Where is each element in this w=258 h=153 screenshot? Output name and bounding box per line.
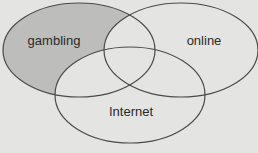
online-label: online (187, 33, 222, 48)
internet-label: Internet (109, 104, 153, 119)
gambling-label: gambling (28, 33, 81, 48)
venn-diagram: gambling online Internet (0, 0, 258, 153)
